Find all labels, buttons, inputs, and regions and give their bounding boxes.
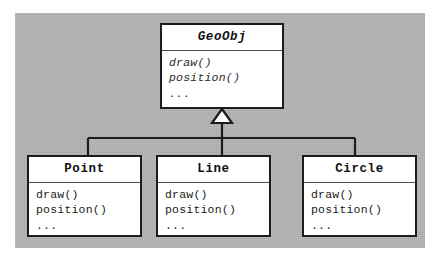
class-member: position() xyxy=(169,70,282,86)
class-member: ... xyxy=(36,218,140,234)
class-box-circle[interactable]: Circle draw() position() ... xyxy=(302,155,417,237)
class-members-line: draw() position() ... xyxy=(158,183,269,237)
class-member: draw() xyxy=(311,187,415,203)
class-member: draw() xyxy=(169,55,282,71)
class-box-geoobj[interactable]: GeoObj draw() position() ... xyxy=(160,23,284,109)
class-member: draw() xyxy=(36,187,140,203)
class-member: ... xyxy=(169,86,282,102)
class-member: position() xyxy=(311,202,415,218)
class-member: ... xyxy=(311,218,415,234)
class-title-geoobj: GeoObj xyxy=(162,25,282,51)
class-box-line[interactable]: Line draw() position() ... xyxy=(156,155,271,237)
diagram-canvas: GeoObj draw() position() ... Point draw(… xyxy=(0,0,440,264)
class-member: ... xyxy=(165,218,269,234)
class-title-point: Point xyxy=(29,157,140,183)
class-member: position() xyxy=(36,202,140,218)
class-box-point[interactable]: Point draw() position() ... xyxy=(27,155,142,237)
class-title-circle: Circle xyxy=(304,157,415,183)
class-member: draw() xyxy=(165,187,269,203)
class-members-circle: draw() position() ... xyxy=(304,183,415,237)
class-title-line: Line xyxy=(158,157,269,183)
class-member: position() xyxy=(165,202,269,218)
class-members-geoobj: draw() position() ... xyxy=(162,51,282,105)
class-members-point: draw() position() ... xyxy=(29,183,140,237)
